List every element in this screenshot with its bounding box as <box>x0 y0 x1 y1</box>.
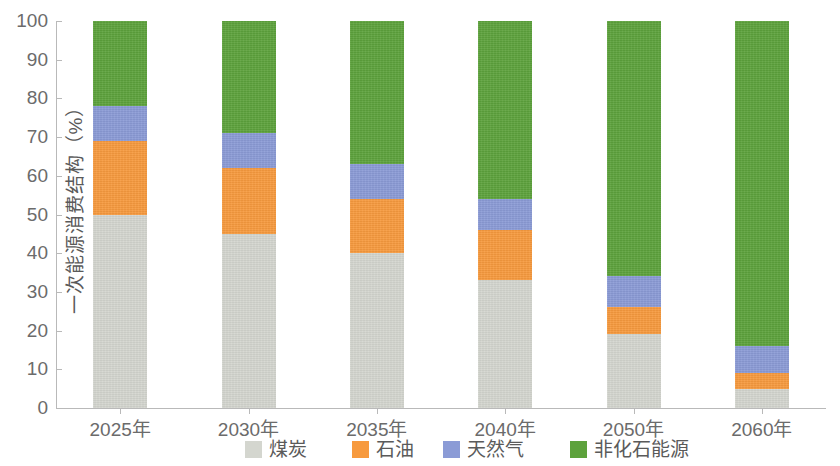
legend-item-非化石能源[interactable]: 非化石能源 <box>570 440 689 459</box>
y-tick-label: 70 <box>4 126 48 148</box>
bar-segment-石油 <box>350 199 404 253</box>
x-tick-label: 2060年 <box>707 414 817 441</box>
y-tick-mark <box>56 253 62 254</box>
legend-item-天然气[interactable]: 天然气 <box>443 440 524 459</box>
legend-label: 石油 <box>376 440 414 459</box>
bar-2060年 <box>735 21 789 408</box>
y-tick-label: 90 <box>4 49 48 71</box>
bar-segment-煤炭 <box>478 280 532 408</box>
y-tick-label: 100 <box>4 10 48 32</box>
bar-segment-石油 <box>222 168 276 234</box>
bar-segment-非化石能源 <box>222 21 276 133</box>
bar-2040年 <box>478 21 532 408</box>
x-tick-label: 2025年 <box>65 414 175 441</box>
y-tick-mark <box>56 331 62 332</box>
x-axis-line <box>56 408 826 409</box>
legend-item-石油[interactable]: 石油 <box>352 440 414 459</box>
y-tick-label: 10 <box>4 358 48 380</box>
y-tick-mark <box>56 60 62 61</box>
bar-segment-煤炭 <box>735 389 789 408</box>
bar-segment-煤炭 <box>93 215 147 409</box>
legend-swatch-icon <box>352 441 369 458</box>
y-tick-mark <box>56 21 62 22</box>
bar-segment-非化石能源 <box>350 21 404 164</box>
legend-label: 天然气 <box>467 440 524 459</box>
y-tick-label: 30 <box>4 281 48 303</box>
y-tick-mark <box>56 137 62 138</box>
x-tick-label: 2035年 <box>322 414 432 441</box>
y-tick-mark <box>56 292 62 293</box>
y-tick-label: 80 <box>4 87 48 109</box>
x-tick-label: 2050年 <box>579 414 689 441</box>
bar-2035年 <box>350 21 404 408</box>
bar-2030年 <box>222 21 276 408</box>
bar-segment-石油 <box>478 230 532 280</box>
bar-segment-非化石能源 <box>93 21 147 106</box>
bar-segment-天然气 <box>222 133 276 168</box>
y-tick-mark <box>56 408 62 409</box>
legend-item-煤炭[interactable]: 煤炭 <box>245 440 307 459</box>
bar-segment-煤炭 <box>607 334 661 408</box>
legend-label: 煤炭 <box>269 440 307 459</box>
y-tick-mark <box>56 215 62 216</box>
bar-segment-石油 <box>735 373 789 388</box>
bar-2025年 <box>93 21 147 408</box>
bar-segment-煤炭 <box>350 253 404 408</box>
bar-segment-石油 <box>93 141 147 215</box>
chart-legend: 煤炭石油天然气非化石能源 <box>0 440 840 466</box>
legend-label: 非化石能源 <box>594 440 689 459</box>
y-tick-mark <box>56 176 62 177</box>
bar-segment-非化石能源 <box>607 21 661 276</box>
y-axis-ticks: 1009080706050403020100 <box>0 0 48 466</box>
plot-area <box>56 21 826 408</box>
bar-segment-石油 <box>607 307 661 334</box>
legend-swatch-icon <box>245 441 262 458</box>
y-tick-label: 50 <box>4 204 48 226</box>
x-tick-label: 2040年 <box>450 414 560 441</box>
bar-2050年 <box>607 21 661 408</box>
legend-swatch-icon <box>570 441 587 458</box>
bar-segment-非化石能源 <box>735 21 789 346</box>
bar-segment-非化石能源 <box>478 21 532 199</box>
x-tick-label: 2030年 <box>194 414 304 441</box>
bar-segment-天然气 <box>93 106 147 141</box>
y-tick-label: 40 <box>4 242 48 264</box>
y-tick-mark <box>56 98 62 99</box>
y-tick-mark <box>56 369 62 370</box>
bar-segment-天然气 <box>478 199 532 230</box>
stacked-bar-chart: 一次能源消费结构（%） 1009080706050403020100 2025年… <box>0 0 840 466</box>
y-tick-label: 20 <box>4 320 48 342</box>
bar-segment-煤炭 <box>222 234 276 408</box>
bar-segment-天然气 <box>607 276 661 307</box>
bar-segment-天然气 <box>350 164 404 199</box>
y-tick-label: 60 <box>4 165 48 187</box>
y-tick-label: 0 <box>4 397 48 419</box>
legend-swatch-icon <box>443 441 460 458</box>
bar-segment-天然气 <box>735 346 789 373</box>
